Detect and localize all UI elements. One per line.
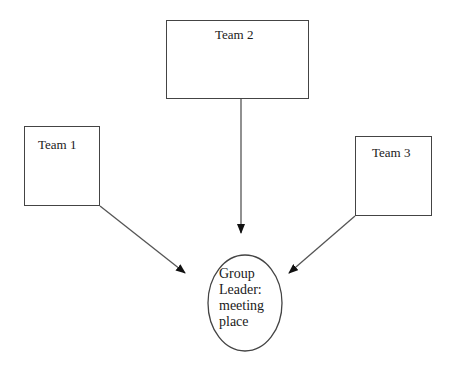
arrow-team3-to-leader — [289, 216, 355, 273]
group-leader-label-line: Group — [219, 266, 264, 282]
team-flow-diagram: Team 2 Team 1 Team 3 Group Leader: meeti… — [0, 0, 451, 371]
group-leader-label-line: place — [219, 314, 264, 330]
group-leader-label-line: meeting — [219, 298, 264, 314]
team-1-label: Team 1 — [38, 138, 76, 152]
group-leader-label: Group Leader: meeting place — [219, 266, 264, 330]
team-2-label: Team 2 — [215, 28, 253, 42]
team-2-box: Team 2 — [166, 20, 309, 99]
group-leader-label-line: Leader: — [219, 282, 264, 298]
team-1-box: Team 1 — [24, 126, 100, 206]
team-3-label: Team 3 — [372, 146, 410, 160]
arrow-team1-to-leader — [100, 206, 185, 273]
team-3-box: Team 3 — [355, 136, 432, 216]
